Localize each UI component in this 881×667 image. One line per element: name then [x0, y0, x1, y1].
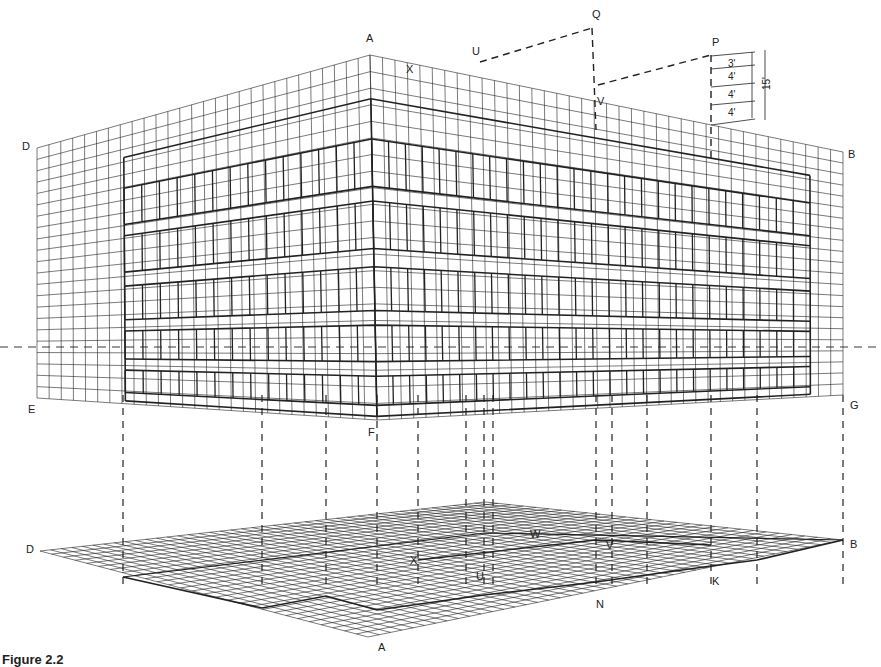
plan-point-label: A — [378, 641, 386, 653]
window-mullion — [390, 203, 391, 250]
window-mullion — [440, 208, 441, 253]
elevation-point-label: P — [712, 36, 719, 48]
window-mullion — [425, 326, 426, 361]
window-mullion — [474, 211, 475, 255]
plan-point-label: U — [476, 570, 484, 582]
window-mullion — [456, 151, 457, 196]
elevation-point-label: B — [848, 148, 855, 160]
window-mullion — [388, 141, 389, 188]
grid-line — [370, 55, 843, 152]
window-mullion — [301, 153, 302, 197]
window-mullion — [507, 159, 508, 202]
window-mullion — [541, 218, 542, 260]
window-mullion — [405, 144, 406, 190]
elevation-point-label: Q — [592, 8, 601, 20]
elevation-point-label: G — [850, 399, 859, 411]
window-mullion — [355, 203, 356, 250]
window-mullion — [336, 146, 337, 192]
window-mullion — [356, 268, 357, 311]
elevation-point-label: E — [28, 403, 35, 415]
perspective-construction-diagram: 3'4'4'4'15' AXUQVPDBEFGDBAWVXUNK Figure … — [0, 0, 881, 667]
plan-grid-line — [169, 517, 626, 585]
construction-line — [480, 28, 592, 62]
dimension-label: 4' — [728, 89, 736, 100]
window-mullion — [267, 275, 268, 314]
window-mullion — [304, 327, 305, 361]
window-mullion — [542, 276, 543, 315]
window-mullion — [423, 206, 424, 252]
floor-plan-grid — [40, 502, 843, 637]
dimension-tick — [711, 119, 755, 125]
window-mullion — [322, 326, 323, 361]
window-mullion — [422, 146, 423, 192]
window-mullion — [525, 275, 526, 314]
window-mullion — [524, 217, 525, 259]
plan-point-label: X — [410, 554, 418, 566]
window-mullion — [409, 326, 410, 362]
elevation-point-label: A — [366, 32, 374, 44]
window-mullion — [439, 149, 440, 194]
building-edge — [124, 157, 126, 401]
window-mullion — [337, 206, 338, 252]
plan-point-label: N — [596, 598, 604, 610]
window-mullion — [473, 154, 474, 198]
window-mullion — [475, 272, 476, 313]
grid-line — [37, 105, 371, 182]
dimension-tick — [711, 52, 755, 56]
window-mullion — [540, 164, 541, 206]
plan-grid-line — [321, 535, 792, 625]
plan-point-label: W — [530, 528, 541, 540]
window-mullion — [319, 150, 320, 195]
window-mullion — [340, 375, 341, 403]
grid-line — [371, 121, 843, 196]
plan-point-label: B — [850, 538, 857, 550]
plan-point-label: D — [26, 543, 34, 555]
projection-lines — [123, 395, 843, 590]
window-mullion — [248, 164, 249, 206]
window-mullion — [284, 213, 285, 256]
window-mullion — [559, 277, 560, 315]
window-mullion — [491, 273, 492, 313]
window-mullion — [523, 161, 524, 203]
window-mullion — [575, 222, 576, 263]
window-mullion — [321, 271, 322, 313]
window-mullion — [266, 216, 267, 259]
window-mullion — [558, 220, 559, 261]
elevation-point-label: V — [597, 95, 605, 107]
window-mullion — [441, 270, 442, 312]
window-mullion — [459, 326, 460, 360]
window-mullion — [339, 326, 340, 361]
dimension-label: 4' — [728, 107, 736, 118]
window-mullion — [392, 325, 393, 361]
window-mullion — [303, 272, 304, 313]
window-mullion — [408, 269, 409, 312]
window-mullion — [357, 326, 358, 362]
window-mullion — [458, 271, 459, 312]
elevation-point-label: F — [368, 426, 375, 438]
floor-band-line — [125, 367, 810, 377]
window-mullion — [249, 276, 250, 315]
window-mullion — [302, 211, 303, 255]
plan-point-label: V — [606, 539, 614, 551]
construction-lines: 3'4'4'4'15' — [0, 28, 881, 347]
window-mullion — [507, 215, 508, 258]
window-mullion — [286, 327, 287, 360]
window-mullion — [406, 204, 407, 250]
floor-band-line — [124, 139, 810, 203]
figure-caption: Figure 2.2 — [2, 652, 63, 667]
window-mullion — [354, 142, 355, 189]
window-mullion — [557, 166, 558, 207]
elevation-point-label: U — [472, 45, 480, 57]
window-mullion — [508, 274, 509, 314]
grid-line — [37, 72, 370, 160]
elevation-point-label: X — [406, 63, 414, 75]
window-mullion — [285, 274, 286, 314]
drawing-canvas: 3'4'4'4'15' AXUQVPDBEFGDBAWVXUNK — [0, 0, 881, 667]
window-mullion — [391, 268, 392, 311]
window-mullion — [457, 210, 458, 255]
window-mullion — [424, 270, 425, 312]
plan-point-label: K — [712, 575, 720, 587]
dimension-tick — [711, 83, 755, 87]
window-mullion — [410, 375, 411, 404]
window-mullion — [283, 157, 284, 200]
